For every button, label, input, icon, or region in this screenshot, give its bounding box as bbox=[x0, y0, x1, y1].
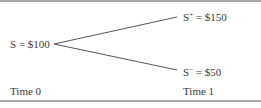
time-0-label: Time 0 bbox=[10, 85, 41, 97]
root-value: $100 bbox=[28, 38, 50, 50]
up-node-label: S+ = $150 bbox=[183, 11, 227, 23]
up-value: $150 bbox=[205, 11, 227, 23]
down-value: $50 bbox=[205, 66, 222, 78]
bottom-rule bbox=[0, 100, 261, 102]
down-node-label: S− = $50 bbox=[183, 66, 221, 78]
up-branch-line bbox=[54, 17, 177, 44]
down-branch-line bbox=[54, 44, 177, 70]
time-1-label: Time 1 bbox=[183, 85, 214, 97]
root-node-label: S = $100 bbox=[10, 38, 50, 50]
